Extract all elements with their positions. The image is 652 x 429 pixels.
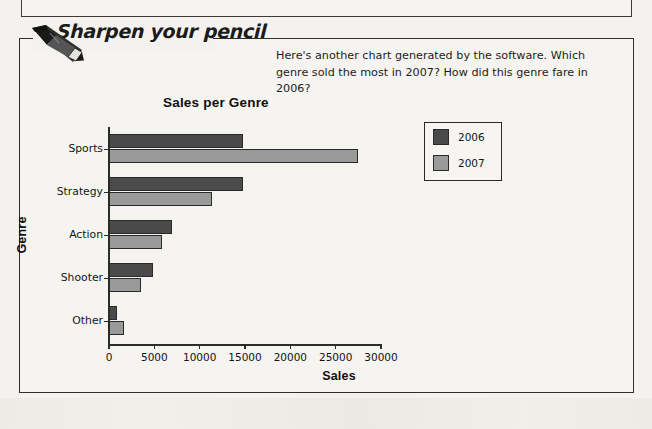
pencil-icon [26,24,88,70]
chart-title: Sales per Genre [163,95,269,110]
exercise-prompt: Here's another chart generated by the so… [276,48,596,98]
legend-label-2006: 2006 [458,131,485,143]
page-bottom-smudge [0,398,652,429]
y-axis-title: Genre [15,216,29,253]
legend-swatch-2006 [433,129,449,145]
legend-swatch-2007 [433,155,449,171]
chart-legend: 2006 2007 [424,122,502,181]
page-title: Sharpen your pencil [56,20,267,42]
previous-exercise-box [21,0,632,17]
x-axis-title: Sales [322,369,356,383]
legend-item-2007: 2007 [433,155,485,171]
legend-item-2006: 2006 [433,129,485,145]
legend-label-2007: 2007 [458,157,485,169]
